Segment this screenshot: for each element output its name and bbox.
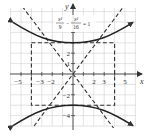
svg-text:16: 16 [73,24,79,30]
svg-text:2: 2 [92,78,96,86]
svg-text:x²: x² [57,16,62,22]
svg-text:2: 2 [67,50,71,58]
svg-text:5: 5 [123,78,127,86]
svg-text:1: 1 [67,60,71,68]
hyperbola-chart: x y −5 −3 −2 2 3 5 2 1 −2 −4 x² 9 − x² 1… [0,0,152,138]
svg-text:−4: −4 [63,112,71,120]
x-axis-label: x [139,77,144,86]
svg-text:−5: −5 [14,78,22,86]
svg-text:−: − [66,20,69,26]
equation-label: x² 9 − x² 16 = 1 [54,15,96,32]
svg-text:3: 3 [102,78,106,86]
y-tick-labels: 2 1 −2 −4 [63,50,71,120]
svg-text:−3: −3 [36,78,44,86]
y-axis-label: y [64,2,69,11]
svg-text:= 1: = 1 [83,21,90,27]
svg-text:−2: −2 [63,92,71,100]
svg-text:9: 9 [59,24,62,30]
svg-text:−2: −2 [47,78,55,86]
svg-text:x²: x² [73,16,78,22]
